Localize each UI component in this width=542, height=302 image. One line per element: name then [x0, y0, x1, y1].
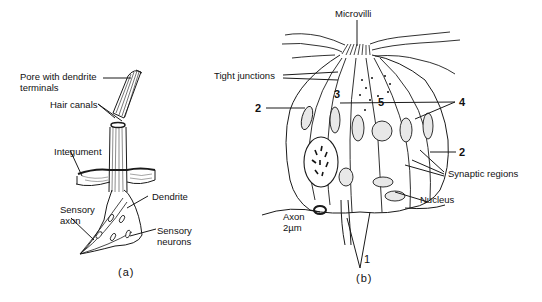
label-sensory-axon: Sensory axon: [60, 204, 95, 226]
label-sensory-axon-line2: axon: [60, 215, 81, 226]
label-number-2-right: 2: [459, 146, 465, 158]
label-tight-junctions: Tight junctions: [214, 70, 275, 81]
label-number-5: 5: [378, 96, 384, 108]
label-axon: Axon 2µm: [283, 211, 305, 233]
label-pore-line1: Pore with dendrite: [20, 71, 97, 82]
label-sensory-neurons: Sensory neurons: [157, 225, 192, 247]
label-synaptic-regions: Synaptic regions: [448, 168, 518, 179]
label-number-3: 3: [334, 88, 340, 100]
label-number-2-left: 2: [255, 102, 261, 114]
label-pore-with-dendrite-terminals: Pore with dendrite terminals: [20, 71, 97, 93]
label-nucleus: Nucleus: [420, 194, 454, 205]
label-dendrite: Dendrite: [152, 191, 188, 202]
label-number-1: 1: [364, 253, 370, 265]
label-pore-line2: terminals: [20, 82, 59, 93]
label-sensory-neurons-line2: neurons: [157, 236, 191, 247]
label-microvilli: Microvilli: [335, 8, 371, 19]
label-integument: Integument: [54, 146, 102, 157]
label-sensory-axon-line1: Sensory: [60, 204, 95, 215]
label-hair-canals: Hair canals: [50, 99, 98, 110]
label-sensory-neurons-line1: Sensory: [157, 225, 192, 236]
label-scale-2um: 2µm: [283, 222, 302, 233]
panel-a-drawing: [70, 70, 156, 254]
caption-panel-b: (b): [356, 272, 372, 284]
label-number-4: 4: [459, 96, 465, 108]
caption-panel-a: (a): [118, 266, 134, 278]
label-axon-text: Axon: [283, 211, 305, 222]
